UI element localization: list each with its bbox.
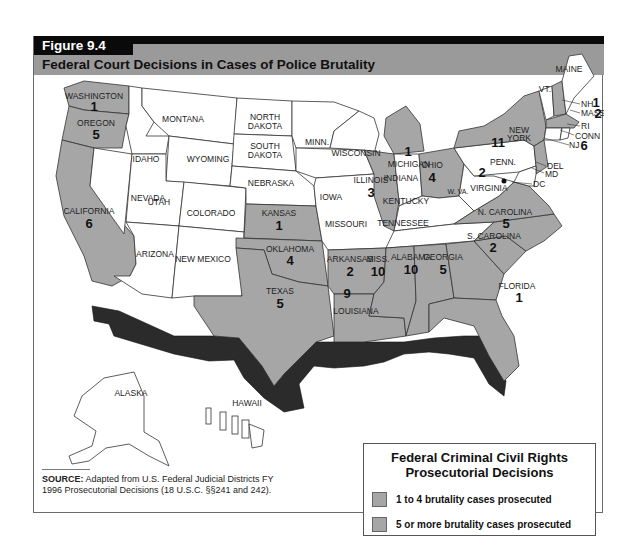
- label-miss: MISS.: [366, 254, 389, 264]
- count-virginia: 2: [478, 165, 485, 180]
- count-illinois: 3: [367, 185, 374, 200]
- source-note: SOURCE: Adapted from U.S. Federal Judici…: [42, 474, 282, 496]
- label-utah: UTAH: [148, 197, 171, 207]
- count-ohio: 4: [428, 170, 436, 185]
- label-nebraska: NEBRASKA: [248, 178, 295, 188]
- label-arizona: ARIZONA: [136, 249, 174, 259]
- legend-title-line1: Federal Criminal Civil Rights: [364, 450, 595, 465]
- count-s-carolina: 2: [489, 240, 496, 255]
- label-missouri: MISSOURI: [325, 219, 367, 229]
- legend-swatch-1-to-4: [372, 492, 387, 507]
- label-penn: PENN.: [490, 157, 516, 167]
- legend-box: Federal Criminal Civil Rights Prosecutor…: [363, 443, 596, 536]
- label-colorado: COLORADO: [187, 208, 236, 218]
- label-minn: MINN.: [305, 137, 329, 147]
- legend-item-5-plus: 5 or more brutality cases prosecuted: [372, 516, 571, 532]
- state-rhode-island: [560, 128, 570, 140]
- count-washington: 1: [90, 99, 97, 114]
- label-south-dakota-2: DAKOTA: [248, 150, 283, 160]
- us-map: WASHINGTON 1 OREGON 5 CALIFORNIA 6 NEVAD…: [34, 36, 604, 513]
- label-texas: TEXAS: [266, 286, 294, 296]
- figure-container: Figure 9.4 Federal Court Decisions in Ca…: [33, 36, 603, 513]
- label-alaska: ALASKA: [114, 388, 147, 398]
- count-oklahoma: 4: [286, 253, 294, 268]
- count-texas: 5: [276, 296, 283, 311]
- label-w-va: W. VA.: [448, 188, 469, 195]
- count-louisiana: 9: [343, 286, 350, 301]
- count-kansas: 1: [275, 218, 282, 233]
- label-louisiana: LOUISIANA: [333, 306, 379, 316]
- label-new-york-2: YORK: [507, 133, 531, 143]
- legend-label-5-plus: 5 or more brutality cases prosecuted: [396, 519, 571, 530]
- label-iowa: IOWA: [320, 192, 343, 202]
- count-california: 6: [85, 216, 92, 231]
- count-n-carolina: 5: [502, 216, 509, 231]
- state-colorado: [179, 182, 246, 232]
- label-indiana: INDIANA: [384, 173, 419, 183]
- label-idaho: IDAHO: [133, 154, 160, 164]
- label-hawaii: HAWAII: [232, 398, 262, 408]
- count-miss: 10: [371, 264, 385, 279]
- count-nj: 6: [580, 138, 587, 153]
- count-arkansas: 2: [346, 264, 353, 279]
- legend-swatch-5-plus: [372, 517, 387, 532]
- label-dc: DC: [533, 179, 545, 189]
- label-montana: MONTANA: [162, 114, 204, 124]
- count-mass: 2: [594, 106, 601, 121]
- count-georgia: 5: [439, 262, 446, 277]
- legend-title: Federal Criminal Civil Rights Prosecutor…: [364, 450, 595, 480]
- count-florida: 1: [515, 290, 522, 305]
- label-wyoming: WYOMING: [187, 154, 230, 164]
- label-california: CALIFORNIA: [63, 206, 114, 216]
- label-tennessee: TENNESSEE: [377, 218, 429, 228]
- count-alabama: 10: [404, 262, 418, 277]
- state-connecticut: [544, 128, 562, 140]
- state-hawaii: [206, 408, 264, 448]
- label-md: MD: [545, 169, 558, 179]
- state-alaska: [69, 372, 169, 466]
- legend-title-line2: Prosecutorial Decisions: [364, 465, 595, 480]
- count-new-york: 11: [491, 135, 505, 150]
- label-maine: MAINE: [556, 64, 583, 74]
- label-georgia: GEORGIA: [423, 252, 463, 262]
- label-ohio: OHIO: [421, 160, 443, 170]
- label-kentucky: KENTUCKY: [383, 196, 430, 206]
- source-divider: [42, 469, 90, 470]
- label-kansas: KANSAS: [262, 208, 297, 218]
- count-oregon: 5: [92, 127, 99, 142]
- label-wisconsin: WISCONSIN: [331, 148, 380, 158]
- label-north-dakota-2: DAKOTA: [248, 121, 283, 131]
- legend-item-1-to-4: 1 to 4 brutality cases prosecuted: [372, 491, 552, 507]
- source-label: SOURCE:: [42, 474, 84, 484]
- label-new-mexico: NEW MEXICO: [175, 254, 231, 264]
- label-virginia: VIRGINIA: [470, 183, 508, 193]
- label-vt: VT.: [539, 84, 551, 94]
- label-nj: NJ: [569, 140, 579, 150]
- label-ri: RI: [581, 121, 590, 131]
- legend-label-1-to-4: 1 to 4 brutality cases prosecuted: [396, 494, 552, 505]
- count-michigan: 1: [404, 144, 411, 159]
